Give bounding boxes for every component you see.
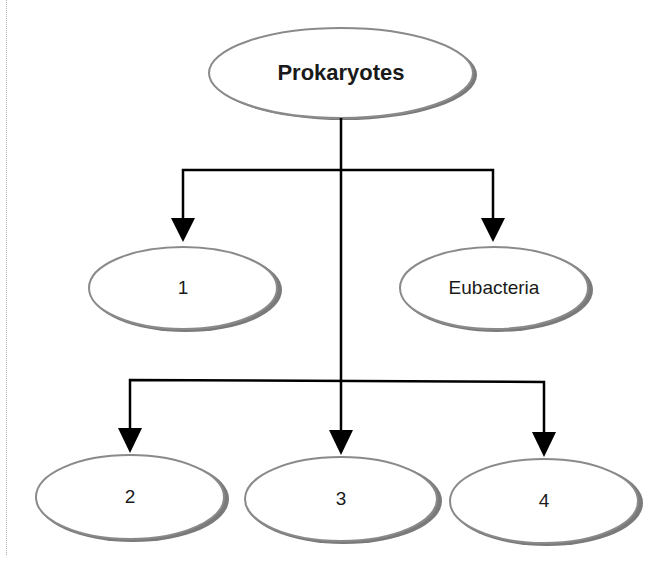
arrow-to-eubacteria bbox=[481, 218, 505, 242]
arrow-to-3 bbox=[329, 430, 353, 455]
node-label-1: 1 bbox=[178, 277, 189, 299]
node-label-2: 2 bbox=[125, 486, 136, 508]
node-label-eubacteria: Eubacteria bbox=[449, 277, 540, 299]
arrow-to-4 bbox=[532, 432, 556, 457]
root-label-prokaryotes: Prokaryotes bbox=[277, 60, 404, 86]
node-label-3: 3 bbox=[336, 488, 347, 510]
arrow-to-1 bbox=[171, 218, 195, 242]
arrow-to-2 bbox=[118, 428, 142, 453]
node-label-4: 4 bbox=[539, 490, 550, 512]
